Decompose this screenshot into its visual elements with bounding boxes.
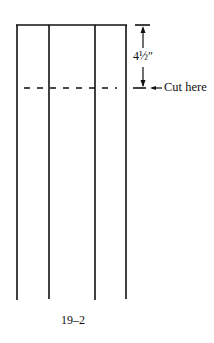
arrow-up-icon	[141, 26, 146, 33]
arrow-down-icon	[141, 80, 146, 87]
arrow-left-icon	[150, 86, 156, 90]
cut-here-label: Cut here	[164, 80, 207, 95]
strip-diagram	[0, 0, 214, 343]
dimension-label: 4½″	[133, 49, 153, 64]
figure-caption: 19–2	[61, 313, 85, 328]
